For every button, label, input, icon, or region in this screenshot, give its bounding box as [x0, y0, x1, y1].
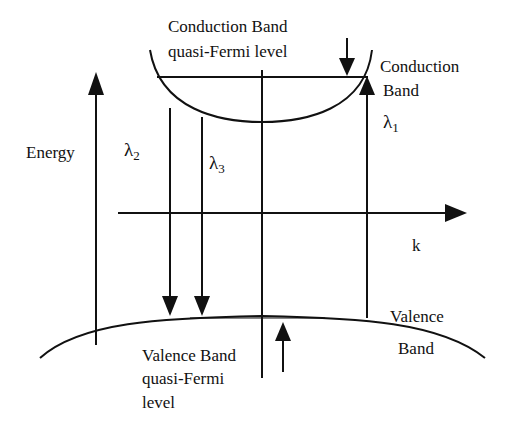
cb-fermi-pointer-icon [339, 58, 355, 76]
k-arrow-icon [445, 204, 467, 222]
energy-axis-label: Energy [26, 142, 75, 163]
cb-quasi-fermi-label-line1: Conduction Band [168, 16, 287, 37]
lambda3-label: λ3 [209, 152, 225, 179]
vb-quasi-fermi-label-line2: quasi-Fermi [142, 368, 224, 389]
lambda1-symbol: λ [383, 111, 392, 132]
lambda2-label: λ2 [124, 139, 140, 166]
lambda3-subscript: 3 [218, 161, 225, 176]
vb-fermi-pointer-icon [275, 322, 291, 341]
lambda3-symbol: λ [209, 152, 218, 173]
conduction-band-label-line2: Band [383, 80, 419, 101]
lambda2-symbol: λ [124, 139, 133, 160]
cb-quasi-fermi-label-line2: quasi-Fermi level [168, 41, 287, 62]
conduction-band-label-line1: Conduction [380, 56, 459, 77]
energy-arrow-icon [88, 72, 104, 95]
lambda1-subscript: 1 [392, 120, 399, 135]
vb-quasi-fermi-label-line3: level [142, 392, 175, 413]
lambda1-arrow-icon [359, 76, 375, 95]
lambda2-subscript: 2 [133, 148, 140, 163]
lambda2-arrow-icon [162, 296, 178, 316]
lambda1-label: λ1 [383, 111, 399, 138]
lambda3-arrow-icon [194, 296, 210, 316]
k-axis-label: k [412, 235, 421, 256]
valence-band-label-line2: Band [398, 338, 434, 359]
valence-band-label-line1: Valence [390, 306, 444, 327]
vb-quasi-fermi-label-line1: Valence Band [142, 345, 236, 366]
